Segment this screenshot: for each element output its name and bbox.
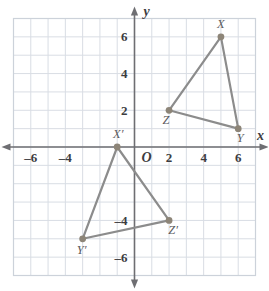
- vertex-label: Y′: [77, 243, 87, 257]
- origin-label: O: [142, 150, 152, 165]
- x-axis-arrow-right: [260, 143, 269, 150]
- vertex-label: Y: [237, 131, 246, 145]
- vertex-label: X′: [112, 127, 124, 141]
- vertex-label: Z′: [168, 223, 178, 237]
- axes-group: [2, 7, 269, 289]
- coordinate-plane-svg: –6–4246642–4–6OxyXYZX′Y′Z′: [0, 0, 268, 291]
- x-tick-label: 6: [235, 150, 242, 165]
- x-tick-label: –4: [58, 150, 73, 165]
- x-axis-arrow-left: [2, 143, 11, 150]
- x-axis-label: x: [256, 128, 264, 143]
- vertex-label: X: [216, 17, 226, 31]
- x-tick-label: 2: [166, 150, 173, 165]
- vertex-point: [218, 33, 225, 40]
- x-tick-label: –6: [23, 150, 38, 165]
- y-tick-label: –6: [114, 250, 129, 265]
- y-tick-label: 6: [121, 29, 128, 44]
- y-axis-arrow-up: [131, 7, 138, 16]
- vertex-label: Z: [163, 113, 171, 127]
- x-tick-label: 4: [200, 150, 207, 165]
- vertex-point: [79, 235, 86, 242]
- y-tick-label: –4: [114, 213, 129, 228]
- y-axis-arrow-down: [131, 280, 138, 289]
- y-tick-label: 4: [121, 66, 128, 81]
- coordinate-plane-figure: –6–4246642–4–6OxyXYZX′Y′Z′: [0, 0, 268, 291]
- vertex-point: [114, 144, 121, 151]
- y-axis-label: y: [142, 4, 151, 19]
- y-tick-label: 2: [121, 103, 128, 118]
- series-triangle-xyz: XYZ: [163, 17, 246, 145]
